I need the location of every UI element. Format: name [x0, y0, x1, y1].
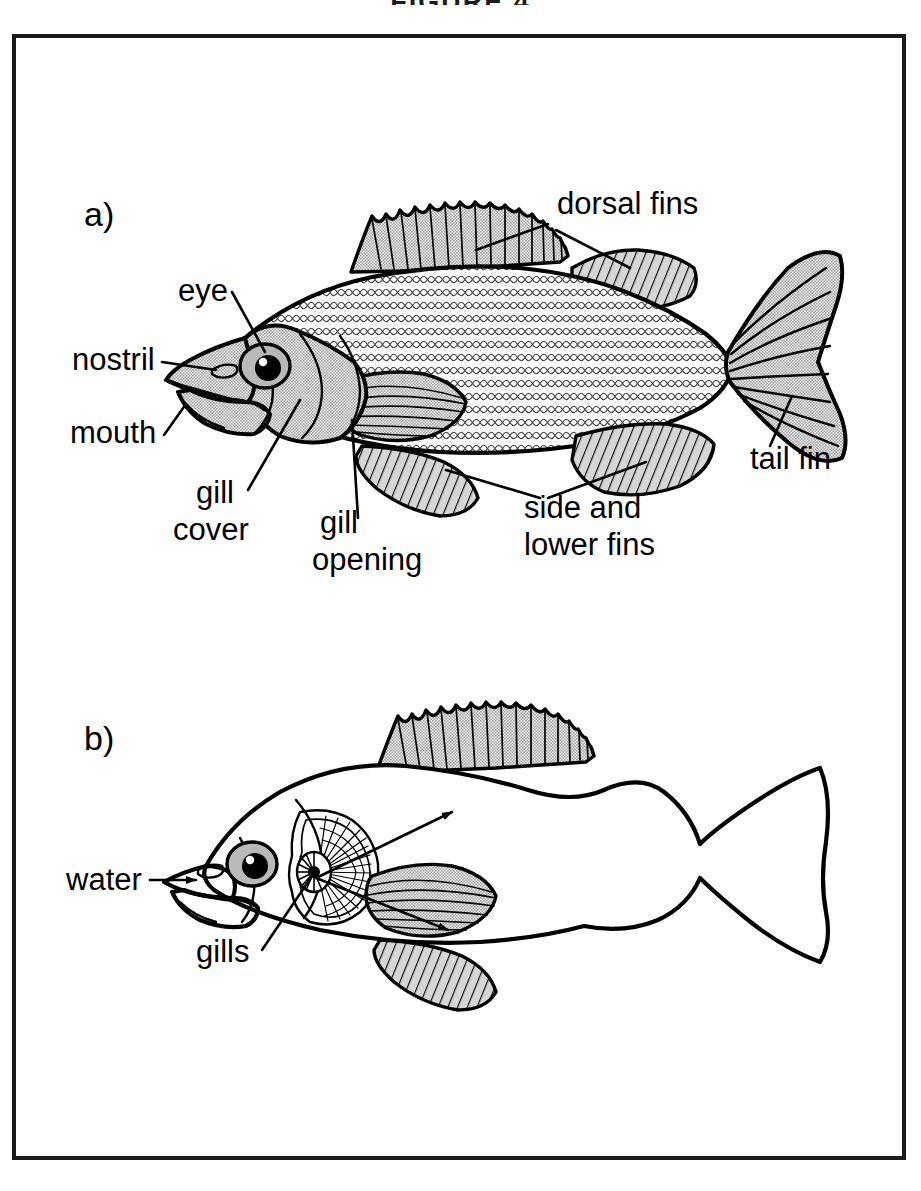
spiny-dorsal-fin-b: [376, 702, 594, 773]
panel-a: a): [70, 186, 846, 577]
label-gill-opening-line2: opening: [312, 542, 422, 577]
label-water: water: [65, 862, 142, 897]
label-side-lower-fins-line2: lower fins: [524, 527, 655, 562]
tail-fin-a: [726, 252, 846, 461]
anal-fin-a: [572, 424, 714, 495]
label-mouth: mouth: [70, 415, 156, 450]
figure-root: FIGURE 4: [0, 0, 921, 1191]
spiny-dorsal-fin-a: [351, 202, 568, 272]
pelvic-fin-a: [356, 446, 478, 516]
panel-b-letter: b): [84, 719, 114, 757]
fish-anatomy-plate: a): [0, 0, 921, 1191]
label-tail-fin: tail fin: [750, 441, 831, 476]
panel-a-letter: a): [84, 195, 114, 233]
eye-b: [227, 842, 277, 886]
label-gill-opening-line1: gill: [320, 505, 358, 540]
label-dorsal-fins: dorsal fins: [557, 186, 698, 221]
label-gill-cover-line1: gill: [196, 475, 234, 510]
label-gill-cover-line2: cover: [173, 512, 249, 547]
label-side-lower-fins-line1: side and: [524, 490, 641, 525]
label-nostril: nostril: [72, 342, 155, 377]
panel-b: b): [65, 702, 828, 1010]
label-eye: eye: [178, 273, 228, 308]
anal-fin-b: [374, 940, 496, 1010]
label-gills: gills: [196, 934, 249, 969]
